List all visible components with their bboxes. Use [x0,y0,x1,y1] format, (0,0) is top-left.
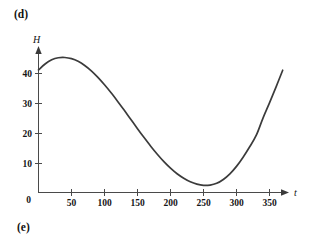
data-curve-H [39,57,283,185]
y-tick-label-20: 20 [23,129,33,139]
x-axis-arrow-icon [281,189,289,195]
y-axis-arrow-icon [35,46,41,54]
y-tick-label-40: 40 [23,69,33,79]
x-tick-label-250: 250 [196,198,211,208]
x-tick-labels: 50 100 150 200 250 300 350 [67,198,277,208]
y-tick-label-30: 30 [23,99,33,109]
part-label-e: (e) [17,222,30,234]
x-tick-label-50: 50 [67,198,77,208]
x-tick-label-100: 100 [97,198,112,208]
y-tick-label-10: 10 [23,159,33,169]
y-axis-label: H [32,34,41,45]
y-tick-label-0: 0 [26,195,31,205]
figure-container: (d) H t 0 10 20 30 40 [0,0,314,239]
x-tick-label-150: 150 [130,198,145,208]
x-axis-label: t [294,187,297,198]
x-tick-label-350: 350 [262,198,277,208]
chart-plot: H t 0 10 20 30 40 50 100 [0,0,314,239]
x-tick-label-200: 200 [163,198,178,208]
x-tick-label-300: 300 [229,198,244,208]
y-tick-labels: 0 10 20 30 40 [23,69,33,205]
